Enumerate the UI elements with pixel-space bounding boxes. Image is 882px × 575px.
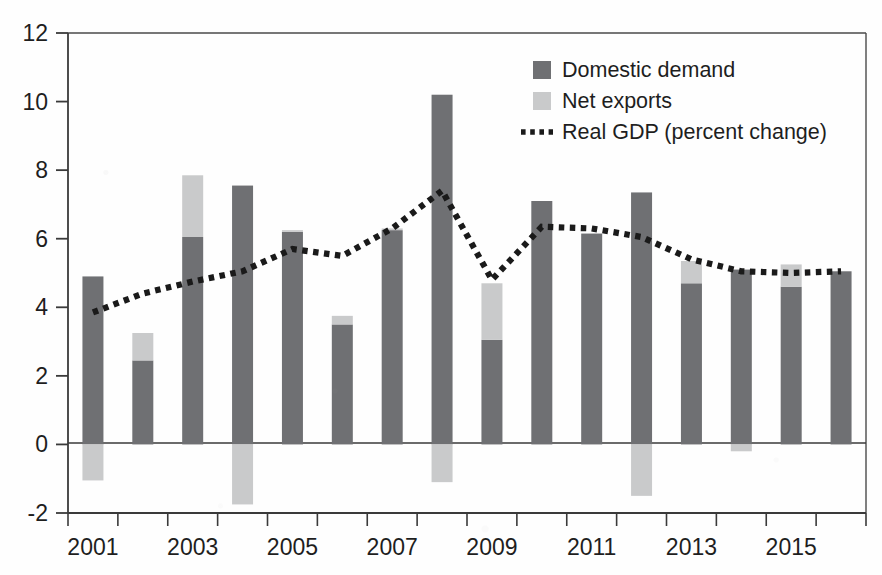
legend-swatch-domestic-demand xyxy=(533,61,551,79)
y-axis-tick-label: 6 xyxy=(35,226,48,252)
bar-segment-domestic-demand xyxy=(332,324,353,444)
bar-segment-domestic-demand xyxy=(581,234,602,445)
y-axis-tick-label: 4 xyxy=(35,294,48,320)
legend-label: Net exports xyxy=(562,89,672,113)
x-axis-tick-label: 2007 xyxy=(367,534,418,560)
bar-segment-domestic-demand xyxy=(132,360,153,444)
bar-segment-domestic-demand xyxy=(282,232,303,445)
y-axis-tick-label: 10 xyxy=(22,89,48,115)
x-axis: 20012003200520072009201120132015 xyxy=(67,513,866,560)
legend-label: Domestic demand xyxy=(562,58,735,82)
bar-segment-domestic-demand xyxy=(481,340,502,445)
bar-segment-domestic-demand xyxy=(731,270,752,445)
bar-segment-net-exports xyxy=(232,444,253,504)
bar-segment-domestic-demand xyxy=(681,283,702,444)
y-axis-tick-label: 12 xyxy=(22,20,48,46)
bar-segment-net-exports xyxy=(182,175,203,237)
bar-segment-domestic-demand xyxy=(382,230,403,444)
x-axis-tick-label: 2001 xyxy=(67,534,118,560)
y-axis: -2024681012 xyxy=(22,20,68,526)
y-axis-tick-label: 8 xyxy=(35,157,48,183)
real-gdp-dotted-line xyxy=(93,191,841,313)
bar-segment-net-exports xyxy=(681,261,702,283)
bar-segment-domestic-demand xyxy=(182,237,203,444)
bar-segment-domestic-demand xyxy=(232,186,253,445)
bar-segment-net-exports xyxy=(332,316,353,325)
y-axis-tick-label: 0 xyxy=(35,431,48,457)
x-axis-tick-label: 2013 xyxy=(666,534,717,560)
x-axis-tick-label: 2003 xyxy=(167,534,218,560)
chart-legend: Domestic demandNet exportsReal GDP (perc… xyxy=(521,58,827,144)
y-axis-tick-label: 2 xyxy=(35,363,48,389)
bar-segment-domestic-demand xyxy=(82,276,103,444)
legend-swatch-net-exports xyxy=(533,92,551,110)
bar-segment-net-exports xyxy=(132,333,153,360)
y-axis-tick-label: -2 xyxy=(28,500,48,526)
bar-segment-net-exports xyxy=(631,444,652,495)
gdp-decomposition-chart: -2024681012 2001200320052007200920112013… xyxy=(0,0,882,575)
bar-segment-domestic-demand xyxy=(631,192,652,444)
real-gdp-line-layer xyxy=(93,191,841,313)
x-axis-tick-label: 2011 xyxy=(567,534,616,560)
bar-segment-net-exports xyxy=(481,283,502,340)
x-axis-tick-label: 2005 xyxy=(267,534,318,560)
bar-segment-net-exports xyxy=(731,444,752,451)
x-axis-tick-label: 2015 xyxy=(766,534,817,560)
bar-segment-net-exports xyxy=(432,444,453,482)
bar-segment-domestic-demand xyxy=(781,287,802,445)
legend-label: Real GDP (percent change) xyxy=(562,120,827,144)
chart-container: -2024681012 2001200320052007200920112013… xyxy=(0,0,882,575)
bar-segment-domestic-demand xyxy=(432,95,453,445)
bar-segment-domestic-demand xyxy=(831,271,852,444)
bar-segment-net-exports xyxy=(82,444,103,480)
bar-segment-net-exports xyxy=(282,230,303,232)
x-axis-tick-label: 2009 xyxy=(466,534,517,560)
